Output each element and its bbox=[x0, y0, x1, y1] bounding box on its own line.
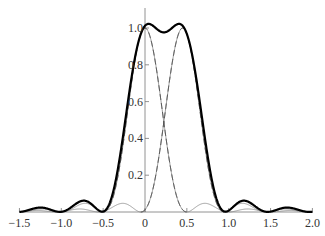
x-tick-label: 1.0 bbox=[221, 216, 236, 230]
curve-thin-2 bbox=[19, 28, 312, 212]
x-tick-label: −1.0 bbox=[50, 216, 72, 230]
x-tick-label: 0 bbox=[142, 216, 148, 230]
x-tick-label: 2.0 bbox=[305, 216, 320, 230]
x-tick-label: 1.5 bbox=[263, 216, 278, 230]
y-tick-label: 1.0 bbox=[128, 21, 143, 35]
y-tick-label: 0.8 bbox=[128, 58, 143, 72]
x-tick-label: −1.5 bbox=[9, 216, 31, 230]
chart-plot: −1.5−1.0−0.500.51.01.52.00.20.40.60.81.0 bbox=[0, 0, 325, 236]
x-tick-label: 0.5 bbox=[179, 216, 194, 230]
y-tick-label: 0.2 bbox=[128, 168, 143, 182]
curve-thin-1 bbox=[19, 28, 312, 212]
axes bbox=[19, 8, 312, 212]
x-tick-label: −0.5 bbox=[92, 216, 114, 230]
curve-sum bbox=[19, 24, 312, 212]
y-tick-label: 0.4 bbox=[128, 131, 143, 145]
curves bbox=[19, 24, 312, 212]
y-tick-label: 0.6 bbox=[128, 95, 143, 109]
